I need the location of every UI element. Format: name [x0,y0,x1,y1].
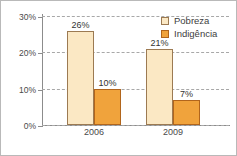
bar-2009-indigencia: 7% [173,100,200,125]
legend-swatch-icon-pobreza [161,17,169,25]
y-axis-label-30: 30% [19,13,36,22]
legend-swatch-icon-indigencia [161,30,169,38]
legend-item-indigencia: Indigência [161,28,217,40]
y-tick-mark-10 [38,90,42,91]
chart-legend: Pobreza Indigência [161,15,217,41]
gridline-0: 0% [42,125,229,126]
y-axis-label-0: 0% [24,122,36,131]
bar-2006-pobreza: 26% [67,31,94,125]
bar-2006-indigencia: 10% [94,89,121,125]
legend-label-pobreza: Pobreza [174,16,209,26]
bar-value-2006-indigencia: 10% [98,79,116,88]
y-tick-mark-0 [38,126,42,127]
y-tick-mark-30 [38,17,42,18]
x-axis-label-2009: 2009 [163,128,183,137]
bar-value-2006-pobreza: 26% [71,21,89,30]
y-axis-label-10: 10% [19,85,36,94]
bar-chart: 30% 20% 10% 0% 26% 10% 21% 7% 2006 200 [0,0,237,156]
x-axis-label-2006: 2006 [84,128,104,137]
bar-value-2009-indigencia: 7% [180,90,193,99]
y-tick-mark-20 [38,53,42,54]
legend-item-pobreza: Pobreza [161,15,217,27]
y-axis-label-20: 20% [19,49,36,58]
legend-label-indigencia: Indigência [174,29,217,39]
bar-2009-pobreza: 21% [146,49,173,125]
